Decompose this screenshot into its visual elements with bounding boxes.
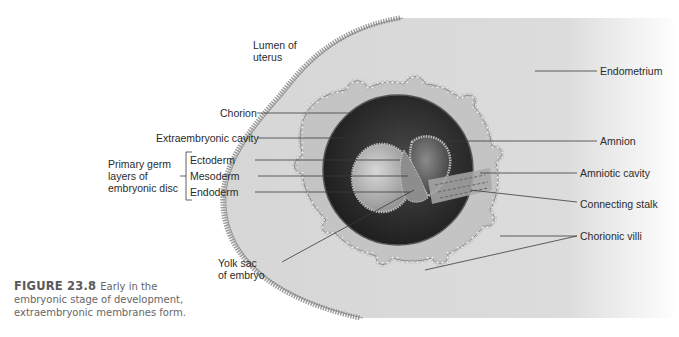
label-text: Lumen of (253, 39, 297, 51)
label-text: Yolk sac (218, 257, 265, 269)
label-lumen-of-uterus: Lumen of uterus (253, 39, 297, 63)
label-chorionic-villi: Chorionic villi (580, 230, 642, 242)
label-text: embryonic disc (108, 182, 178, 194)
label-yolk-sac: Yolk sac of embryo (218, 257, 265, 281)
label-endoderm: Endoderm (190, 186, 238, 198)
label-mesoderm: Mesoderm (190, 170, 240, 182)
label-extraembryonic-cavity: Extraembryonic cavity (156, 132, 259, 144)
caption-text-2: embryonic stage of development, (14, 294, 183, 305)
figure-caption: FIGURE 23.8Early in the embryonic stage … (14, 280, 214, 319)
caption-text-3: extraembryonic membranes form. (14, 307, 186, 318)
label-text: of embryo (218, 269, 265, 281)
label-text: layers of (108, 170, 178, 182)
label-amniotic-cavity: Amniotic cavity (580, 167, 650, 179)
label-text: Primary germ (108, 158, 178, 170)
label-connecting-stalk: Connecting stalk (580, 198, 658, 210)
label-amnion: Amnion (600, 135, 636, 147)
label-endometrium: Endometrium (600, 65, 662, 77)
figure-number: FIGURE 23.8 (14, 279, 96, 293)
caption-text-1: Early in the (100, 281, 157, 292)
label-text: uterus (253, 51, 297, 63)
label-primary-germ-layers: Primary germ layers of embryonic disc (108, 158, 178, 194)
label-chorion: Chorion (220, 107, 257, 119)
label-ectoderm: Ectoderm (190, 154, 235, 166)
